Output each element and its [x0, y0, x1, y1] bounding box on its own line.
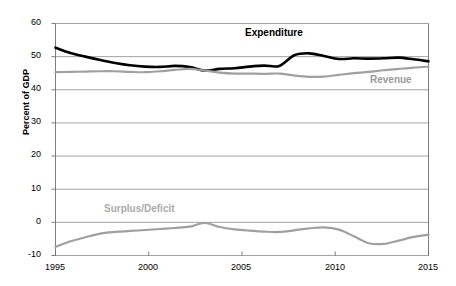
- y-tick-label-30: 30: [15, 116, 41, 126]
- y-tick-label-10: 10: [15, 183, 41, 193]
- series-line-expenditure: [56, 48, 429, 71]
- x-tick-label-2005: 2005: [221, 262, 261, 272]
- x-tick-label-2000: 2000: [128, 262, 168, 272]
- x-tick-label-2015: 2015: [408, 262, 448, 272]
- y-tick-label-60: 60: [15, 17, 41, 27]
- x-tick-label-2010: 2010: [315, 262, 355, 272]
- surplus-deficit-series-label: Surplus/Deficit: [104, 203, 175, 214]
- expenditure-series-label: Expenditure: [245, 27, 303, 38]
- y-axis-title: Percent of GDP: [21, 57, 35, 147]
- y-tick-label-minus10: -10: [15, 249, 41, 259]
- series-line-surplus-deficit: [56, 223, 429, 247]
- y-tick-marks: [52, 24, 56, 256]
- y-tick-label-20: 20: [15, 149, 41, 159]
- y-tick-label-50: 50: [15, 50, 41, 60]
- x-tick-marks: [56, 252, 429, 256]
- y-tick-label-0: 0: [15, 216, 41, 226]
- revenue-series-label: Revenue: [370, 74, 412, 85]
- chart-container: Percent of GDP 60 50 40 30 20 10 0 -10 1…: [0, 0, 456, 286]
- chart-plot-area: [0, 0, 456, 286]
- x-tick-label-1995: 1995: [35, 262, 75, 272]
- y-tick-label-40: 40: [15, 83, 41, 93]
